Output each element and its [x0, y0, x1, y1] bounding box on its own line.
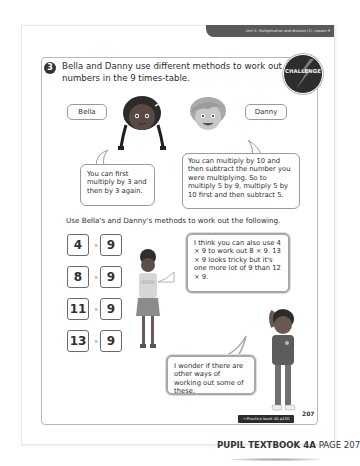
- bella-name-tag: Bella: [67, 104, 107, 120]
- times-sign: ×: [92, 330, 100, 352]
- unit-header: Unit 5: Multiplication and division (1),…: [206, 25, 334, 37]
- times-sign: ×: [92, 234, 100, 256]
- girl-speech-bubble: I think you can also use 4 × 9 to work o…: [186, 233, 290, 293]
- instruction-text: Use Bella's and Danny's methods to work …: [66, 216, 280, 225]
- question-text: Bella and Danny use different methods to…: [62, 60, 282, 84]
- lightning-bolt-icon: [284, 55, 322, 93]
- girl-speech-text: I think you can also use 4 × 9 to work o…: [194, 239, 281, 281]
- question-number: 3: [44, 62, 56, 74]
- footer-label: PUPIL TEXTBOOK 4A PAGE 207: [217, 440, 360, 450]
- times-sign: ×: [92, 266, 100, 288]
- boy-illustration: [263, 305, 303, 415]
- girl-illustration: [133, 248, 163, 358]
- footer-book-title: PUPIL TEXTBOOK 4A: [217, 440, 316, 450]
- danny-name-tag: Danny: [245, 104, 287, 120]
- bella-illustration: [117, 95, 177, 155]
- boy-speech-text: I wonder if there are other ways of work…: [174, 362, 244, 395]
- left-number-card: 4: [67, 234, 89, 256]
- right-number-card: 9: [100, 266, 122, 288]
- left-number-card: 8: [67, 266, 89, 288]
- bella-speech-text: You can first multiply by 3 and then by …: [87, 170, 147, 195]
- left-number-card: 13: [67, 330, 89, 352]
- challenge-label: CHALLENGE: [284, 68, 322, 74]
- boy-speech-bubble: I wonder if there are other ways of work…: [166, 355, 256, 395]
- boy-bubble-tail: [226, 336, 248, 356]
- footer-page: PAGE 207: [319, 440, 360, 450]
- footer-shadow: [230, 458, 320, 461]
- right-number-card: 9: [100, 330, 122, 352]
- times-sign: ×: [92, 298, 100, 320]
- right-number-card: 9: [100, 234, 122, 256]
- danny-speech-bubble: You can multiply by 10 and then subtract…: [182, 153, 300, 209]
- left-number-card: 11: [67, 298, 89, 320]
- right-number-card: 9: [100, 298, 122, 320]
- bella-speech-bubble: You can first multiply by 3 and then by …: [80, 164, 155, 206]
- challenge-badge: CHALLENGE: [283, 54, 323, 94]
- girl-bubble-tail: [158, 270, 174, 284]
- danny-illustration: [186, 95, 236, 140]
- danny-speech-text: You can multiply by 10 and then subtract…: [188, 157, 290, 199]
- page-number: 207: [302, 410, 315, 417]
- practice-book-reference: → Practice book 4A p150: [238, 415, 294, 423]
